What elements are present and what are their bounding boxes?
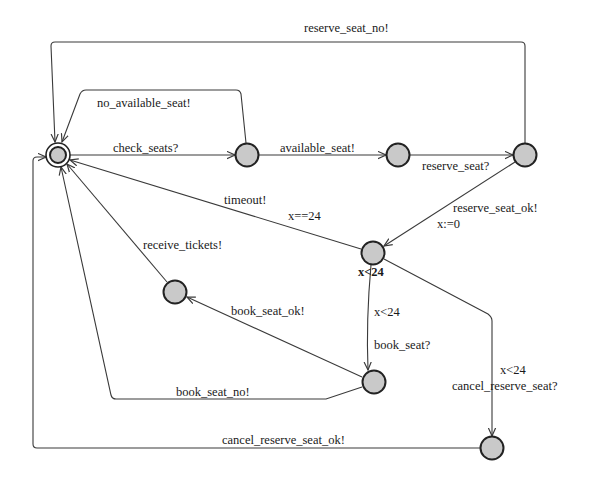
label-reserve-seat: reserve_seat? — [422, 160, 489, 173]
edge-book-seat-no — [61, 167, 362, 399]
node-initial — [46, 143, 70, 167]
label-timeout: timeout! — [224, 194, 266, 207]
edge-timeout — [70, 160, 361, 249]
node-available — [387, 144, 410, 167]
node-reserve-request — [514, 144, 537, 167]
edge-book-seat — [367, 265, 371, 370]
automaton-diagram — [0, 0, 599, 485]
label-receive-tickets: receive_tickets! — [143, 239, 222, 252]
edge-reserve-seat-no — [51, 42, 525, 143]
label-book-seat: book_seat? — [374, 339, 430, 352]
label-reserve-seat-ok-update: x:=0 — [437, 218, 460, 231]
label-check-seats: check_seats? — [113, 142, 178, 155]
node-cancelling — [481, 437, 504, 460]
label-cancel-guard: x<24 — [500, 364, 526, 377]
label-book-seat-ok: book_seat_ok! — [231, 305, 305, 318]
node-reserved — [362, 242, 385, 265]
node-booked — [164, 281, 187, 304]
label-available-seat: available_seat! — [280, 142, 355, 155]
node-booking — [363, 371, 386, 394]
label-cancel-reserve-seat: cancel_reserve_seat? — [452, 380, 557, 393]
label-book-seat-guard: x<24 — [374, 306, 400, 319]
label-cancel-reserve-seat-ok: cancel_reserve_seat_ok! — [222, 434, 345, 447]
label-reserve-seat-ok: reserve_seat_ok! — [453, 202, 538, 215]
label-invariant-reserved: x<24 — [358, 266, 384, 279]
label-timeout-guard: x==24 — [288, 210, 321, 223]
label-no-available-seat: no_available_seat! — [97, 97, 191, 110]
label-book-seat-no: book_seat_no! — [176, 386, 250, 399]
node-checked — [236, 144, 259, 167]
label-reserve-seat-no: reserve_seat_no! — [304, 22, 389, 35]
